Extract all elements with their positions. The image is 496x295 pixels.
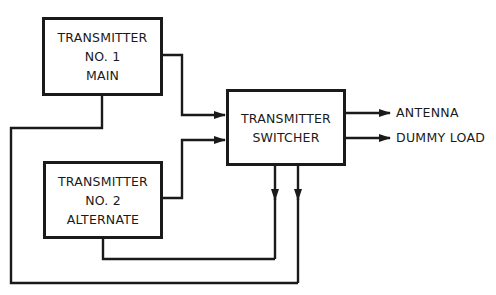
tx1-label-line-3: MAIN [86,66,119,85]
transmitter-switcher-block: TRANSMITTER SWITCHER [226,89,346,166]
transmitter-1-main-block: TRANSMITTER NO. 1 MAIN [42,17,163,96]
switcher-label-line-2: SWITCHER [252,128,319,147]
switcher-label-line-1: TRANSMITTER [241,109,331,128]
tx2-label-line-3: ALTERNATE [67,210,139,229]
tx1-label-line-1: TRANSMITTER [58,28,148,47]
antenna-label: ANTENNA [396,106,459,120]
tx2-label-line-2: NO. 2 [85,191,121,210]
tx2-to-switcher-line [162,140,225,198]
transmitter-2-alternate-block: TRANSMITTER NO. 2 ALTERNATE [43,161,163,239]
tx1-to-switcher-line [162,55,225,115]
switcher-to-tx2-control-line [103,238,275,259]
tx1-label-line-2: NO. 1 [85,47,121,66]
dummy-load-label: DUMMY LOAD [396,131,485,145]
tx2-label-line-1: TRANSMITTER [58,172,148,191]
transmitter-switching-diagram: TRANSMITTER NO. 1 MAIN TRANSMITTER NO. 2… [0,0,496,295]
